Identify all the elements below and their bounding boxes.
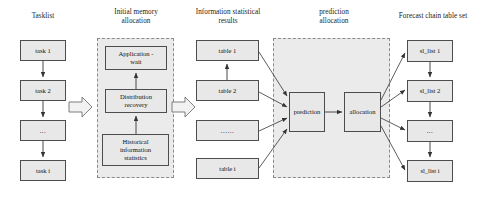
- node-prediction-label: prediction: [294, 108, 321, 116]
- node-task-2[interactable]: task 2: [20, 80, 66, 101]
- node-sl-list-i-label: sl_list i: [420, 167, 439, 175]
- node-sl-list-ellipsis-label: ...: [427, 127, 434, 135]
- node-sl-list-2[interactable]: sl_list 2: [407, 80, 453, 102]
- node-historical-information-statistics-label: Historical information statistics: [120, 138, 151, 162]
- node-sl-list-2-label: sl_list 2: [420, 87, 441, 95]
- node-allocation[interactable]: allocation: [344, 92, 381, 132]
- column-title-prediction-allocation: prediction allocation: [295, 8, 373, 25]
- node-table-i-label: table i: [219, 165, 235, 173]
- column-title-forecast-chain-table-set: Forecast chain table set: [385, 12, 481, 21]
- node-historical-information-statistics[interactable]: Historical information statistics: [102, 134, 169, 166]
- column-title-tasklist: Tasklist: [7, 12, 79, 21]
- node-task-ellipsis[interactable]: ...: [20, 120, 66, 141]
- node-task-1-label: task 1: [35, 47, 51, 55]
- stage-arrow-1-icon: [69, 97, 92, 117]
- node-sl-list-1-label: sl_list 1: [420, 47, 441, 55]
- node-prediction[interactable]: prediction: [289, 92, 325, 132]
- column-title-initial-memory-allocation-line2: allocation: [122, 17, 151, 25]
- node-application-wait[interactable]: Application - wait: [105, 46, 167, 70]
- node-task-i-label: task i: [36, 167, 50, 175]
- node-task-ellipsis-label: ...: [40, 127, 47, 135]
- node-task-2-label: task 2: [35, 87, 51, 95]
- node-table-i[interactable]: table i: [196, 158, 259, 179]
- column-title-prediction-allocation-line2: allocation: [320, 17, 349, 25]
- node-sl-list-i[interactable]: sl_list i: [407, 160, 453, 182]
- column-title-tasklist-text: Tasklist: [32, 12, 55, 20]
- column-title-prediction-allocation-line1: prediction: [319, 8, 349, 16]
- stage-arrow-2-icon: [172, 97, 195, 117]
- node-application-wait-label: Application - wait: [119, 50, 154, 66]
- node-sl-list-ellipsis[interactable]: ...: [407, 120, 453, 142]
- node-table-ellipsis-label: ......: [221, 127, 235, 135]
- node-table-1-label: table 1: [219, 47, 237, 55]
- node-table-ellipsis[interactable]: ......: [196, 120, 259, 141]
- column-title-information-statistical-results-line2: results: [218, 17, 237, 25]
- node-table-2-label: table 2: [219, 87, 237, 95]
- node-task-1[interactable]: task 1: [20, 40, 66, 61]
- column-title-information-statistical-results-line1: Information statistical: [196, 8, 260, 16]
- node-distribution-recovery-label: Distribution recovery: [120, 93, 152, 109]
- node-table-1[interactable]: table 1: [196, 40, 259, 61]
- column-title-initial-memory-allocation-line1: Initial memory: [114, 8, 158, 16]
- column-title-forecast-chain-table-set-text: Forecast chain table set: [399, 12, 467, 20]
- column-title-initial-memory-allocation: Initial memory allocation: [97, 8, 175, 25]
- node-table-2[interactable]: table 2: [196, 80, 259, 101]
- node-allocation-label: allocation: [350, 108, 376, 116]
- node-task-i[interactable]: task i: [20, 160, 66, 181]
- node-distribution-recovery[interactable]: Distribution recovery: [105, 89, 167, 113]
- column-title-information-statistical-results: Information statistical results: [182, 8, 274, 25]
- node-sl-list-1[interactable]: sl_list 1: [407, 40, 453, 62]
- diagram-canvas: Tasklist Initial memory allocation Infor…: [0, 0, 486, 203]
